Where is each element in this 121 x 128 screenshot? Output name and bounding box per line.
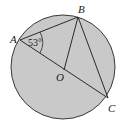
circle-geometry-diagram: A B C O 53° (0, 0, 121, 128)
angle-label-A: 53° (28, 37, 42, 48)
label-B: B (78, 3, 85, 15)
label-A: A (9, 33, 17, 45)
circle (11, 15, 115, 119)
label-C: C (108, 102, 116, 114)
label-O: O (56, 71, 64, 83)
